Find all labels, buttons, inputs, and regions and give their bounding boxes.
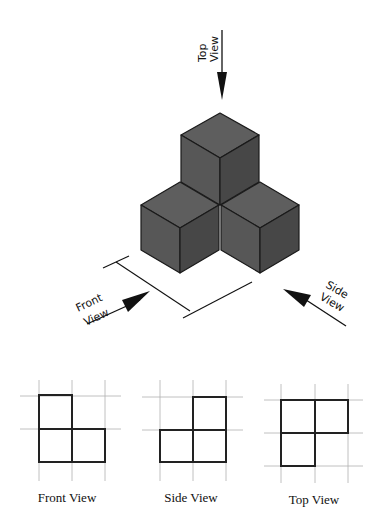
arrowhead-icon bbox=[122, 291, 150, 312]
side-view-arrow: Side View bbox=[283, 278, 351, 326]
side-view-drawing: Side View bbox=[142, 380, 243, 505]
top-view-label-2: View bbox=[208, 36, 221, 62]
arrowhead-icon bbox=[217, 72, 227, 100]
top-view-arrow: Top View bbox=[196, 30, 227, 100]
arrowhead-icon bbox=[283, 289, 311, 307]
front-view-drawing: Front View bbox=[20, 380, 121, 505]
front-view-caption: Front View bbox=[38, 490, 97, 505]
top-view-caption: Top View bbox=[289, 492, 340, 507]
top-view-drawing: Top View bbox=[264, 384, 363, 507]
isometric-cubes bbox=[141, 113, 299, 273]
side-view-caption: Side View bbox=[164, 490, 218, 505]
diagram-canvas: Top View Front View Side View bbox=[0, 0, 379, 532]
front-view-arrow: Front View bbox=[74, 256, 252, 329]
